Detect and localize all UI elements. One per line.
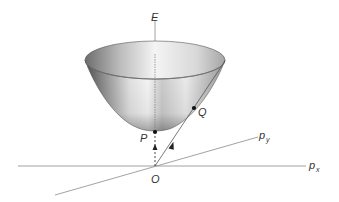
oq-arrow-head	[169, 142, 174, 150]
py-label: p y	[258, 129, 270, 144]
op-arrow-head	[153, 144, 158, 150]
o-label: O	[151, 173, 160, 185]
point-p	[153, 130, 157, 134]
svg-text:y: y	[265, 136, 270, 144]
point-q	[192, 106, 196, 110]
q-label: Q	[198, 106, 207, 118]
paraboloid-diagram: E P Q O p y p x	[0, 0, 339, 202]
p-label: P	[140, 132, 148, 144]
svg-text:p: p	[308, 159, 315, 171]
svg-text:p: p	[258, 129, 265, 141]
px-label: p x	[308, 159, 320, 173]
e-axis-label: E	[151, 11, 159, 23]
svg-text:x: x	[315, 166, 320, 173]
